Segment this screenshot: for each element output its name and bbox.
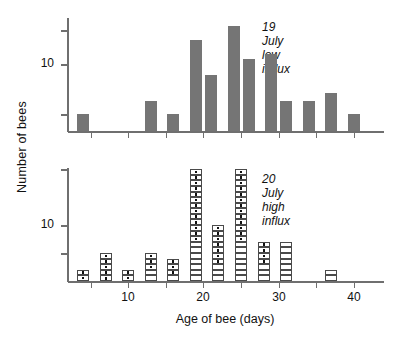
x-axis-label: Age of bee (days) (60, 312, 390, 326)
unit-square-unmarked (235, 247, 247, 253)
unit-square-marked (212, 253, 224, 259)
unit-square-marked (190, 175, 202, 181)
unit-square-marked (212, 231, 224, 237)
figure-bee-age-distribution: Number of bees Age of bee (days) 19 July… (0, 0, 396, 340)
unit-square-marked (235, 208, 247, 214)
top-panel-bar (303, 101, 315, 131)
top-panel-x-tick (316, 132, 317, 138)
unit-square-marked (190, 219, 202, 225)
unit-square-unmarked (280, 242, 292, 248)
bottom-panel-x-tick (316, 282, 317, 288)
unit-square-marked (77, 270, 89, 276)
panel-bottom-annotation-line2: high influx (262, 200, 290, 228)
unit-square-unmarked (280, 264, 292, 270)
unit-square-marked (235, 175, 247, 181)
unit-square-marked (145, 259, 157, 265)
unit-square-unmarked (145, 275, 157, 281)
unit-square-unmarked (190, 253, 202, 259)
bottom-panel-x-axis (68, 281, 384, 283)
unit-square-marked (235, 219, 247, 225)
unit-square-marked (235, 180, 247, 186)
unit-square-marked (190, 192, 202, 198)
bottom-panel-bar (280, 242, 292, 281)
top-panel-y-tick (61, 64, 68, 66)
top-panel-y-tick (61, 114, 68, 116)
x-axis-tick-label: 40 (339, 290, 369, 304)
unit-square-unmarked (235, 242, 247, 248)
unit-square-marked (258, 247, 270, 253)
top-panel-bar (167, 114, 179, 131)
unit-square-marked (190, 214, 202, 220)
unit-square-marked (235, 203, 247, 209)
top-panel-x-tick (91, 132, 92, 138)
unit-square-marked (235, 169, 247, 175)
unit-square-marked (212, 242, 224, 248)
panel-top-annotation-line1: 19 July (262, 20, 290, 48)
unit-square-marked (258, 242, 270, 248)
bottom-panel-bar (325, 270, 337, 281)
unit-square-unmarked (258, 275, 270, 281)
top-panel-bar (190, 40, 202, 131)
unit-square-marked (100, 264, 112, 270)
unit-square-marked (190, 236, 202, 242)
unit-square-unmarked (190, 275, 202, 281)
bottom-panel-x-tick (91, 282, 92, 288)
bottom-panel-y-tick-label: 10 (24, 217, 54, 231)
unit-square-unmarked (280, 275, 292, 281)
unit-square-marked (190, 180, 202, 186)
unit-square-unmarked (325, 270, 337, 276)
top-panel-bar (77, 114, 89, 131)
unit-square-unmarked (190, 264, 202, 270)
bottom-panel-bar (145, 253, 157, 281)
unit-square-marked (167, 264, 179, 270)
unit-square-marked (100, 275, 112, 281)
panel-bottom-annotation: 20 July high influx (262, 172, 290, 228)
unit-square-unmarked (258, 264, 270, 270)
unit-square-marked (167, 270, 179, 276)
bottom-panel-bar (190, 169, 202, 281)
unit-square-marked (145, 253, 157, 259)
unit-square-unmarked (280, 253, 292, 259)
unit-square-marked (100, 270, 112, 276)
unit-square-unmarked (190, 270, 202, 276)
bottom-panel-x-tick (354, 282, 355, 288)
y-axis-label: Number of bees (15, 67, 29, 227)
bottom-panel-x-tick (241, 282, 242, 288)
bottom-panel-bar (258, 242, 270, 281)
unit-square-unmarked (190, 247, 202, 253)
unit-square-unmarked (212, 275, 224, 281)
bottom-panel-bar (77, 270, 89, 281)
unit-square-unmarked (325, 275, 337, 281)
unit-square-marked (190, 203, 202, 209)
top-panel-bar (243, 59, 255, 131)
unit-square-marked (212, 225, 224, 231)
top-panel-bar (145, 101, 157, 131)
unit-square-marked (235, 231, 247, 237)
top-panel-bar (205, 75, 217, 131)
top-panel-x-tick (203, 132, 204, 138)
unit-square-unmarked (258, 270, 270, 276)
top-panel-bar (228, 26, 240, 131)
unit-square-marked (190, 231, 202, 237)
unit-square-marked (235, 186, 247, 192)
top-panel-x-tick (279, 132, 280, 138)
top-panel-x-axis (68, 131, 384, 133)
bottom-panel-bar (167, 259, 179, 281)
unit-square-marked (235, 214, 247, 220)
bottom-panel-bar (122, 270, 134, 281)
top-panel-x-tick (241, 132, 242, 138)
unit-square-marked (212, 259, 224, 265)
unit-square-marked (190, 186, 202, 192)
unit-square-marked (235, 236, 247, 242)
bottom-panel-x-tick (128, 282, 129, 288)
bottom-panel-x-tick (166, 282, 167, 288)
panel-bottom-annotation-line1: 20 July (262, 172, 290, 200)
unit-square-marked (258, 259, 270, 265)
unit-square-unmarked (235, 264, 247, 270)
unit-square-marked (167, 259, 179, 265)
unit-square-marked (190, 225, 202, 231)
unit-square-unmarked (212, 270, 224, 276)
bottom-panel-bar (212, 225, 224, 281)
unit-square-marked (100, 253, 112, 259)
unit-square-unmarked (235, 270, 247, 276)
